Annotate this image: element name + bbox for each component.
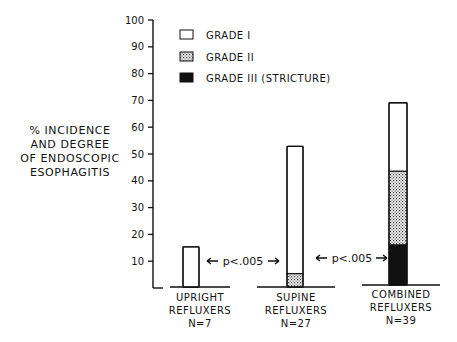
- y-tick-label: 70: [131, 95, 144, 106]
- y-axis-label-line: OF ENDOSCOPIC: [20, 152, 119, 165]
- arrow-right-icon: [268, 258, 279, 264]
- bars: [183, 103, 407, 287]
- category-label: REFLUXERS: [265, 305, 327, 316]
- p-value-label: p<.005: [332, 252, 373, 265]
- y-tick-label: 30: [131, 202, 144, 213]
- p-value-annotation-1: p<.005: [207, 255, 279, 268]
- category-label: REFLUXERS: [370, 302, 432, 313]
- legend-swatch-grade-1: [180, 30, 193, 39]
- y-axis-label-line: % INCIDENCE: [29, 124, 110, 137]
- category-label: N=7: [188, 318, 212, 329]
- y-axis-label-line: AND DEGREE: [30, 138, 109, 151]
- bar-segment-grade-3: [389, 245, 407, 285]
- arrow-left-icon: [316, 255, 327, 261]
- legend-label: GRADE II: [206, 52, 254, 63]
- bar-segment-grade-1: [389, 103, 407, 171]
- y-tick-label: 100: [125, 15, 144, 26]
- p-value-annotation-2: p<.005: [316, 252, 387, 265]
- category-label: N=39: [386, 315, 417, 326]
- arrow-left-icon: [207, 258, 218, 264]
- y-tick-label: 80: [131, 68, 144, 79]
- legend-label: GRADE I: [206, 30, 251, 41]
- y-axis-label: % INCIDENCE AND DEGREE OF ENDOSCOPIC ESO…: [20, 124, 119, 179]
- y-tick-label: 20: [131, 229, 144, 240]
- y-tick-label: 10: [131, 256, 144, 267]
- x-axis-labels: UPRIGHTREFLUXERSN=7SUPINEREFLUXERSN=27CO…: [169, 289, 432, 329]
- bar-segment-grade-1: [183, 247, 199, 287]
- legend-swatch-grade-3: [180, 73, 193, 82]
- y-tick-label: 50: [131, 149, 144, 160]
- y-tick-label: 60: [131, 122, 144, 133]
- arrow-right-icon: [376, 255, 387, 261]
- y-tick-label: 90: [131, 41, 144, 52]
- y-axis-label-line: ESOPHAGITIS: [30, 166, 110, 179]
- y-axis: 102030405060708090100: [125, 15, 163, 289]
- bar-segment-grade-2: [389, 171, 407, 245]
- legend-label: GRADE III (STRICTURE): [206, 73, 331, 84]
- category-label: N=27: [281, 318, 312, 329]
- category-label: REFLUXERS: [169, 305, 231, 316]
- category-label: COMBINED: [372, 289, 431, 300]
- legend-swatch-grade-2: [180, 52, 193, 61]
- category-label: UPRIGHT: [176, 292, 225, 303]
- category-label: SUPINE: [276, 292, 315, 303]
- legend: GRADE I GRADE II GRADE III (STRICTURE): [180, 30, 331, 84]
- esophagitis-chart: % INCIDENCE AND DEGREE OF ENDOSCOPIC ESO…: [0, 0, 457, 342]
- bar-segment-grade-1: [287, 146, 303, 273]
- y-tick-label: 40: [131, 175, 144, 186]
- p-value-label: p<.005: [223, 255, 264, 268]
- bar-segment-grade-2: [287, 274, 303, 287]
